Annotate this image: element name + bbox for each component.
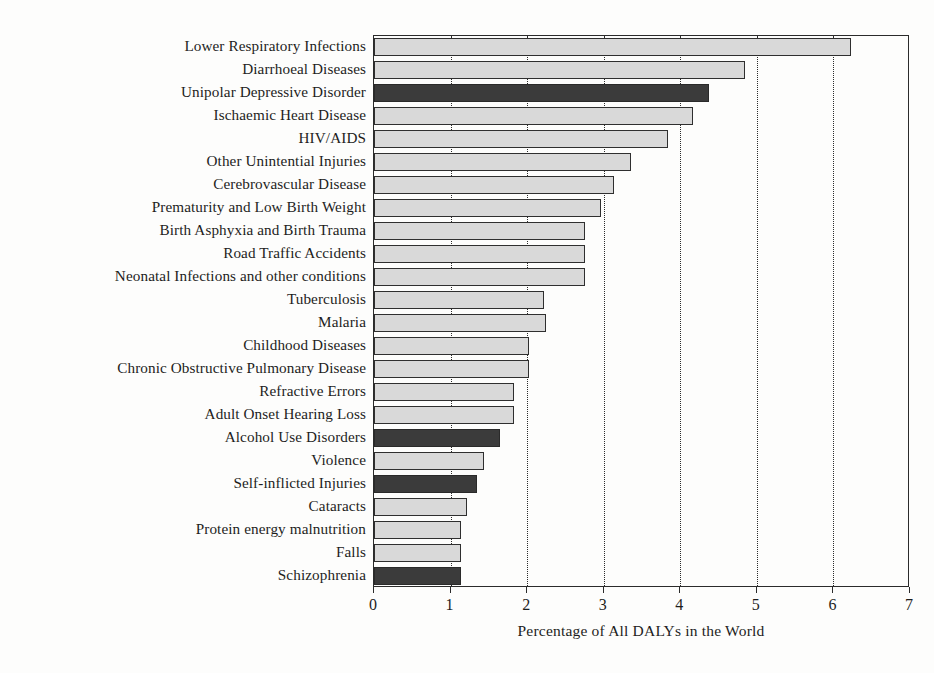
x-tick-mark-7 (909, 587, 910, 593)
category-label: Cerebrovascular Disease (213, 176, 366, 192)
bar-15 (374, 383, 514, 401)
category-label: Unipolar Depressive Disorder (181, 84, 366, 100)
category-label: Lower Respiratory Infections (184, 38, 366, 54)
bar-7 (374, 199, 601, 217)
category-label: Diarrhoeal Diseases (242, 61, 366, 77)
bar-row (374, 404, 910, 427)
category-label: Self-inflicted Injuries (233, 475, 366, 491)
category-label: Cataracts (309, 498, 366, 514)
bar-5 (374, 153, 631, 171)
category-label: Neonatal Infections and other conditions (115, 268, 366, 284)
category-label: Ischaemic Heart Disease (214, 107, 366, 123)
bar-row (374, 335, 910, 358)
x-tick-mark-5 (756, 587, 757, 593)
bar-6 (374, 176, 614, 194)
category-label: HIV/AIDS (299, 130, 366, 146)
bar-row (374, 59, 910, 82)
category-label: Prematurity and Low Birth Weight (152, 199, 366, 215)
bar-16 (374, 406, 514, 424)
x-axis-title: Percentage of All DALYs in the World (373, 622, 909, 640)
bar-9 (374, 245, 585, 263)
category-label: Refractive Errors (259, 383, 366, 399)
bar-10 (374, 268, 585, 286)
category-label: Road Traffic Accidents (223, 245, 366, 261)
bar-17 (374, 429, 500, 447)
bar-19 (374, 475, 477, 493)
x-tick-mark-2 (526, 587, 527, 593)
bar-row (374, 381, 910, 404)
bar-row (374, 36, 910, 59)
bar-22 (374, 544, 461, 562)
bar-row (374, 243, 910, 266)
category-label: Birth Asphyxia and Birth Trauma (160, 222, 366, 238)
x-tick-label-7: 7 (905, 595, 913, 615)
x-tick-label-3: 3 (599, 595, 607, 615)
bar-row (374, 542, 910, 565)
bar-row (374, 312, 910, 335)
bar-12 (374, 314, 546, 332)
bar-4 (374, 130, 668, 148)
category-label: Chronic Obstructive Pulmonary Disease (117, 360, 366, 376)
bar-23 (374, 567, 461, 585)
bar-2 (374, 84, 709, 102)
bar-row (374, 427, 910, 450)
category-label: Childhood Diseases (243, 337, 366, 353)
x-tick-label-0: 0 (369, 595, 377, 615)
bar-row (374, 151, 910, 174)
category-axis-labels: Lower Respiratory InfectionsDiarrhoeal D… (0, 35, 372, 587)
category-label: Malaria (318, 314, 366, 330)
bar-0 (374, 38, 851, 56)
bar-row (374, 220, 910, 243)
category-label: Other Unintential Injuries (207, 153, 367, 169)
bar-row (374, 496, 910, 519)
category-label: Violence (311, 452, 366, 468)
bar-row (374, 266, 910, 289)
category-label: Adult Onset Hearing Loss (205, 406, 366, 422)
category-label: Schizophrenia (278, 567, 366, 583)
bar-row (374, 565, 910, 588)
x-axis-tick-labels: 01234567 (373, 595, 909, 621)
x-tick-label-6: 6 (828, 595, 836, 615)
bar-row (374, 174, 910, 197)
chart-figure: Lower Respiratory InfectionsDiarrhoeal D… (0, 0, 934, 673)
bar-row (374, 450, 910, 473)
bar-row (374, 105, 910, 128)
x-tick-mark-6 (832, 587, 833, 593)
category-label: Alcohol Use Disorders (225, 429, 366, 445)
bar-row (374, 473, 910, 496)
x-tick-mark-1 (450, 587, 451, 593)
bar-13 (374, 337, 529, 355)
category-label: Protein energy malnutrition (196, 521, 366, 537)
plot-area (373, 35, 909, 587)
bar-row (374, 519, 910, 542)
bar-1 (374, 61, 745, 79)
bar-row (374, 82, 910, 105)
x-tick-mark-4 (679, 587, 680, 593)
x-tick-label-2: 2 (522, 595, 530, 615)
bar-8 (374, 222, 585, 240)
x-tick-label-1: 1 (446, 595, 454, 615)
bar-row (374, 358, 910, 381)
bar-11 (374, 291, 544, 309)
bar-row (374, 128, 910, 151)
bar-21 (374, 521, 461, 539)
bar-3 (374, 107, 693, 125)
x-tick-label-5: 5 (752, 595, 760, 615)
bar-row (374, 289, 910, 312)
x-tick-label-4: 4 (675, 595, 683, 615)
x-tick-mark-3 (603, 587, 604, 593)
bar-18 (374, 452, 484, 470)
category-label: Tuberculosis (287, 291, 366, 307)
category-label: Falls (336, 544, 366, 560)
bar-14 (374, 360, 529, 378)
bar-20 (374, 498, 467, 516)
bar-row (374, 197, 910, 220)
x-tick-mark-0 (373, 587, 374, 593)
